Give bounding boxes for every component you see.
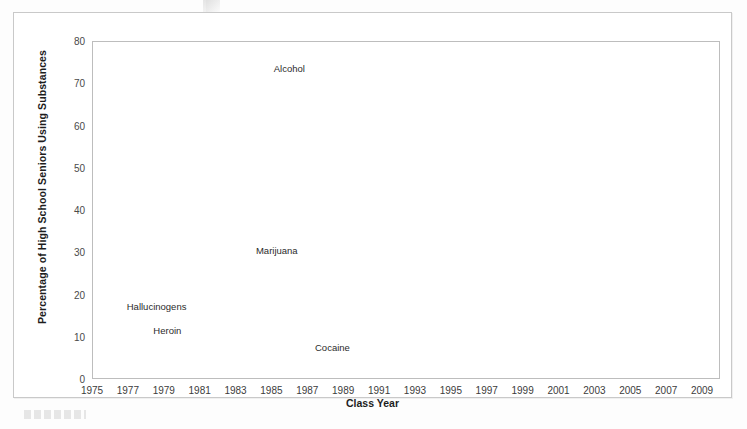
y-tick-80: 80 [74,36,85,47]
x-tick-2001: 2001 [547,385,569,396]
x-tick-1995: 1995 [440,385,462,396]
y-tick-10: 10 [74,331,85,342]
y-tick-40: 40 [74,205,85,216]
x-tick-1993: 1993 [404,385,426,396]
x-tick-1977: 1977 [117,385,139,396]
y-tick-70: 70 [74,78,85,89]
x-axis-title: Class Year [14,397,731,409]
x-tick-1997: 1997 [476,385,498,396]
x-tick-1985: 1985 [260,385,282,396]
x-tick-1979: 1979 [153,385,175,396]
x-tick-1991: 1991 [368,385,390,396]
y-tick-50: 50 [74,162,85,173]
x-tick-2009: 2009 [691,385,713,396]
x-tick-1989: 1989 [332,385,354,396]
y-tick-0: 0 [79,374,85,385]
series-label-cocaine: Cocaine [314,341,351,352]
series-label-heroin: Heroin [152,324,182,335]
series-label-hallucinogens: Hallucinogens [126,301,188,312]
x-tick-1975: 1975 [81,385,103,396]
x-tick-2003: 2003 [583,385,605,396]
figure-frame: Percentage of High School Seniors Using … [13,12,732,398]
caption-ghost-artifact [24,410,86,419]
x-tick-2007: 2007 [655,385,677,396]
x-tick-1987: 1987 [296,385,318,396]
x-tick-1983: 1983 [224,385,246,396]
series-label-marijuana: Marijuana [255,244,299,255]
series-label-alcohol: Alcohol [273,63,306,74]
chart-plot-area: 01020304050607080 1975197719791981198319… [92,41,720,379]
x-tick-1999: 1999 [512,385,534,396]
y-axis-title: Percentage of High School Seniors Using … [36,37,48,337]
y-tick-20: 20 [74,289,85,300]
y-tick-60: 60 [74,120,85,131]
y-tick-30: 30 [74,247,85,258]
x-tick-1981: 1981 [189,385,211,396]
x-tick-2005: 2005 [619,385,641,396]
plot-border [92,41,720,379]
